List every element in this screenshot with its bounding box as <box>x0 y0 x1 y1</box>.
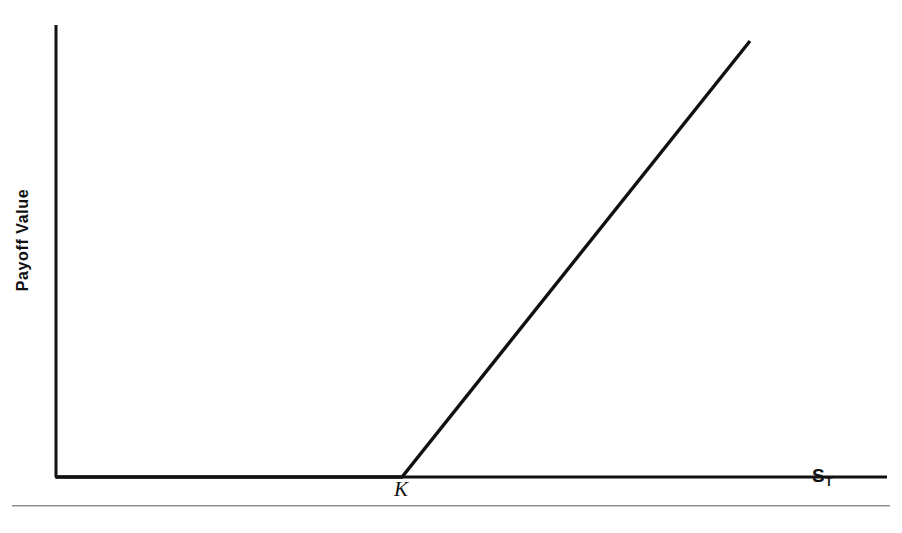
bottom-divider <box>12 505 890 507</box>
x-axis-title: ST <box>812 466 833 488</box>
payoff-diagram-figure: Payoff Value ST K <box>0 0 902 533</box>
x-axis-title-subscript: T <box>825 475 832 489</box>
payoff-chart-svg <box>0 0 902 533</box>
x-axis-title-symbol: S <box>812 465 825 486</box>
strike-price-label: K <box>394 479 408 500</box>
payoff-curve <box>56 41 750 477</box>
